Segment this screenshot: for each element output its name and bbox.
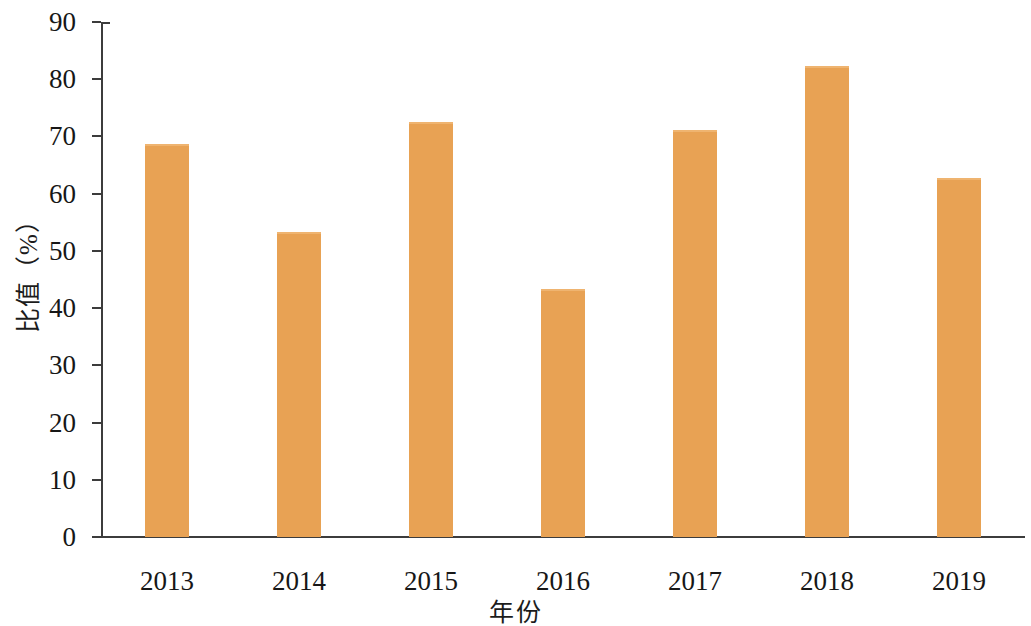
bar — [409, 122, 453, 537]
y-axis-tick-label: 80 — [49, 66, 76, 93]
y-axis-title-text: 比值（%） — [8, 207, 44, 333]
y-axis-tick: 10 — [92, 479, 101, 481]
y-axis-tick: 70 — [92, 135, 101, 137]
x-axis-tick-label: 2017 — [668, 568, 722, 595]
y-axis-tick-label: 50 — [49, 237, 76, 264]
x-axis-right-cap — [1023, 537, 1025, 538]
bar — [805, 66, 849, 537]
y-axis-line — [101, 22, 103, 538]
x-axis-tick-label: 2016 — [536, 568, 590, 595]
y-axis-tick-label: 0 — [63, 524, 77, 551]
y-axis-tick: 80 — [92, 78, 101, 80]
y-axis-tick: 60 — [92, 193, 101, 195]
plot-area: 0102030405060708090 20132014201520162017… — [101, 22, 1025, 537]
y-axis-tick: 90 — [92, 21, 101, 23]
x-axis-tick-label: 2015 — [404, 568, 458, 595]
y-axis-title: 比值（%） — [4, 0, 48, 540]
y-axis-tick: 30 — [92, 364, 101, 366]
x-axis-tick-label: 2018 — [800, 568, 854, 595]
y-axis-tick-label: 10 — [49, 466, 76, 493]
bar — [937, 178, 981, 537]
x-axis-tick-label: 2013 — [140, 568, 194, 595]
y-axis-tick-label: 40 — [49, 295, 76, 322]
bar — [673, 130, 717, 537]
x-axis-title: 年份 — [0, 592, 1031, 626]
y-axis-top-cap — [101, 22, 110, 24]
y-axis-tick: 0 — [92, 536, 101, 538]
bar — [541, 289, 585, 537]
x-axis-tick-label: 2014 — [272, 568, 326, 595]
x-axis-tick-label: 2019 — [932, 568, 986, 595]
y-axis-tick-label: 60 — [49, 180, 76, 207]
y-axis-tick-label: 20 — [49, 409, 76, 436]
bar — [277, 232, 321, 537]
bar-chart: 比值（%） 0102030405060708090 20132014201520… — [0, 0, 1031, 626]
y-axis-tick-label: 70 — [49, 123, 76, 150]
y-axis-tick-label: 30 — [49, 352, 76, 379]
y-axis-tick: 20 — [92, 422, 101, 424]
y-axis-tick-label: 90 — [49, 9, 76, 36]
bar — [145, 144, 189, 537]
y-axis-tick: 50 — [92, 250, 101, 252]
y-axis-tick: 40 — [92, 307, 101, 309]
